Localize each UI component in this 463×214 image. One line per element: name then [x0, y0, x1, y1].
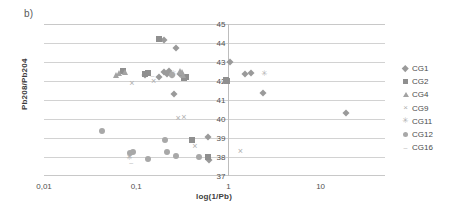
- x-marker-icon: ×: [400, 104, 411, 112]
- data-point: ×: [236, 147, 245, 156]
- legend: CG1CG2CG4×CG9✳CG11CG12–CG16: [400, 62, 460, 154]
- legend-item-label: CG1: [412, 64, 428, 73]
- y-axis-tick-label: 44: [216, 39, 228, 48]
- x-axis-tick-label: 1: [226, 182, 230, 191]
- data-point: [205, 154, 211, 160]
- legend-item-label: CG4: [412, 90, 428, 99]
- legend-item-cg11[interactable]: ✳CG11: [400, 115, 460, 128]
- panel-label: b): [24, 8, 33, 19]
- data-point: [122, 69, 128, 75]
- data-point: ×: [191, 142, 200, 151]
- grid-line: [44, 81, 385, 82]
- grid-line: [44, 157, 385, 158]
- triangle-marker-icon: [400, 92, 411, 97]
- dash-marker-icon: –: [400, 144, 411, 152]
- data-point: [99, 128, 105, 134]
- data-point: [196, 154, 202, 160]
- grid-line: [44, 100, 385, 101]
- grid-line: [44, 138, 385, 139]
- star-marker-icon: ✳: [400, 117, 411, 125]
- legend-item-cg1[interactable]: CG1: [400, 62, 460, 75]
- legend-item-cg4[interactable]: CG4: [400, 88, 460, 101]
- data-point: –: [148, 71, 157, 80]
- data-point: [173, 153, 179, 159]
- legend-item-label: CG9: [412, 104, 428, 113]
- grid-line: [44, 62, 385, 63]
- x-axis-title: log(1/Pb): [196, 192, 232, 201]
- data-point: [180, 72, 186, 78]
- data-point: ×: [128, 78, 137, 87]
- y-axis-tick-label: 39: [216, 134, 228, 143]
- legend-item-label: CG12: [412, 130, 433, 139]
- data-point: –: [127, 158, 136, 167]
- legend-item-cg2[interactable]: CG2: [400, 75, 460, 88]
- data-point: [156, 36, 162, 42]
- vertical-axis-line: [228, 24, 229, 176]
- y-axis-tick-label: 45: [216, 20, 228, 29]
- legend-item-label: CG16: [412, 143, 433, 152]
- data-point: [164, 149, 170, 155]
- x-axis-tick-label: 0,1: [131, 182, 142, 191]
- y-axis-tick-label: 37: [216, 172, 228, 181]
- square-marker-icon: [400, 79, 411, 84]
- data-point: ✳: [260, 69, 269, 78]
- x-axis-tick-label: 10: [316, 182, 325, 191]
- data-point: [130, 149, 136, 155]
- x-axis-tick-label: 0,01: [36, 182, 52, 191]
- grid-line: [44, 119, 385, 120]
- legend-item-label: CG2: [412, 77, 428, 86]
- circle-marker-icon: [400, 132, 411, 137]
- data-point: [162, 137, 168, 143]
- y-axis-title: Pb208/Pb204: [20, 58, 29, 110]
- y-axis-tick-label: 41: [216, 96, 228, 105]
- diamond-marker-icon: [400, 66, 411, 71]
- data-point: [169, 72, 175, 78]
- plot-area: 454443424140393837 0,010,1110 ×××××××✳✳✳…: [44, 24, 385, 176]
- legend-item-label: CG11: [412, 117, 432, 126]
- y-axis-tick-label: 38: [216, 153, 228, 162]
- legend-item-cg9[interactable]: ×CG9: [400, 102, 460, 115]
- data-point: [224, 78, 230, 84]
- grid-line: [44, 43, 385, 44]
- figure-panel: b) Pb208/Pb204 log(1/Pb) 454443424140393…: [0, 0, 463, 214]
- y-axis-tick-label: 40: [216, 115, 228, 124]
- legend-item-cg12[interactable]: CG12: [400, 128, 460, 141]
- data-point: ×: [180, 112, 189, 121]
- data-point: [145, 156, 151, 162]
- legend-item-cg16[interactable]: –CG16: [400, 141, 460, 154]
